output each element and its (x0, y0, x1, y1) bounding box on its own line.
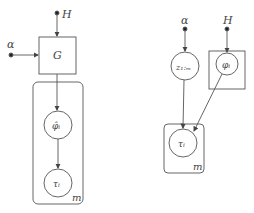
plate-label-left: m (72, 192, 81, 203)
label-h-right: H (222, 14, 233, 27)
label-phihat: φ̂ᵢ (52, 121, 60, 131)
edge-z-tau (183, 80, 184, 128)
label-phi: φᵢ (222, 60, 230, 70)
graphical-models-diagram: H α G φ̂ᵢ τᵢ m α H z₁:ₘ φᵢ τᵢ m (0, 0, 254, 213)
label-alpha-right: α (181, 14, 189, 27)
label-h-left: H (61, 8, 72, 21)
plate-phi (209, 51, 245, 89)
label-tau-right: τᵢ (178, 139, 185, 149)
plate-label-right: m (193, 161, 202, 172)
edge-phi-tau (194, 74, 222, 131)
label-tau-left: τᵢ (53, 179, 60, 189)
label-z: z₁:ₘ (175, 63, 191, 72)
label-g: G (53, 49, 62, 62)
label-alpha-left: α (7, 38, 15, 51)
right-model (164, 27, 245, 173)
left-model (9, 11, 83, 204)
